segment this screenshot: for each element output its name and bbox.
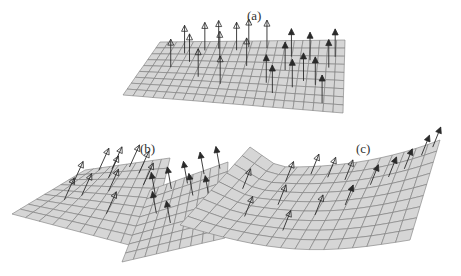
grid-cell	[323, 104, 333, 113]
vector-b-right-3-head	[198, 152, 204, 158]
grid-cell	[253, 98, 265, 106]
grid-cell	[257, 84, 268, 92]
grid-cell	[326, 64, 336, 72]
grid-cell	[288, 71, 298, 79]
vector-a-19-head	[288, 29, 294, 35]
vector-c-13-head	[436, 127, 442, 134]
grid-cell	[318, 48, 327, 56]
grid-cell	[314, 95, 324, 104]
surface-c	[180, 140, 440, 250]
grid-cell	[334, 88, 344, 97]
grid-cell	[335, 72, 345, 81]
grid-cell	[324, 96, 334, 105]
grid-cell	[284, 93, 295, 101]
vector-c-5-head	[331, 157, 337, 164]
grid-cell	[335, 64, 344, 72]
figure-canvas	[0, 0, 461, 276]
grid-cell	[275, 93, 286, 101]
figure: (a) (b) (c)	[0, 0, 461, 276]
grid-cell	[325, 72, 335, 80]
grid-cell	[301, 48, 311, 56]
grid-cell	[273, 55, 283, 63]
grid-cell	[265, 92, 276, 100]
panel-label-b: (b)	[140, 141, 155, 157]
vector-b-right-4-head	[214, 147, 220, 153]
grid-cell	[335, 56, 344, 64]
grid-cell	[296, 79, 306, 87]
grid-cell	[313, 103, 324, 112]
grid-cell	[283, 101, 294, 109]
grid-cell	[279, 70, 290, 78]
grid-cell	[293, 101, 304, 109]
grid-cell	[276, 85, 287, 93]
grid-cell	[308, 64, 318, 72]
grid-cell	[318, 56, 328, 64]
grid-cell	[317, 64, 327, 72]
grid-cell	[304, 94, 315, 102]
vector-c-4-head	[314, 154, 320, 161]
grid-cell	[292, 48, 302, 56]
grid-cell	[336, 40, 345, 48]
grid-cell	[333, 104, 343, 113]
vector-a-20-head	[307, 32, 313, 38]
grid-cell	[286, 86, 297, 94]
grid-cell	[303, 102, 314, 111]
panel-label-a: (a)	[247, 8, 261, 24]
grid-cell	[327, 56, 336, 64]
surface-a	[123, 40, 345, 113]
panel-label-c: (c)	[356, 141, 370, 157]
grid-cell	[310, 40, 319, 48]
grid-cell	[334, 80, 344, 89]
grid-cell	[295, 86, 306, 94]
grid-cell	[336, 48, 345, 56]
grid-cell	[315, 87, 325, 95]
grid-cell	[293, 41, 303, 49]
grid-cell	[333, 96, 343, 105]
vector-c-12-head	[424, 135, 430, 142]
grid-cell	[273, 100, 284, 108]
vector-a-22-head	[332, 29, 338, 35]
grid-cell	[263, 99, 275, 107]
grid-cell	[268, 77, 279, 85]
grid-cell	[294, 94, 305, 102]
grid-cell	[306, 79, 316, 87]
grid-cell	[258, 77, 269, 85]
grid-cell	[282, 55, 292, 63]
grid-cell	[310, 48, 320, 56]
grid-cell	[297, 71, 307, 79]
grid-cell	[324, 88, 334, 97]
grid-cell	[266, 85, 277, 93]
vector-b-right-2-head	[182, 161, 188, 167]
grid-cell	[277, 78, 288, 86]
grid-cell	[325, 80, 335, 89]
grid-cell	[305, 87, 315, 95]
